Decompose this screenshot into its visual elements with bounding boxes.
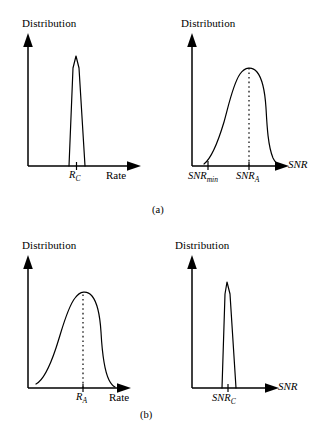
distribution-curve	[69, 56, 85, 166]
distribution-curve	[36, 292, 115, 387]
distribution-curve	[204, 68, 279, 165]
x-tick-label-snra: SNRA	[236, 170, 259, 181]
y-axis	[187, 33, 197, 166]
y-axis-title: Distribution	[22, 17, 76, 29]
x-axis-title: SNR	[278, 380, 298, 392]
figure-distributions: Distribution Rate RC Distribution SNR SN…	[0, 0, 326, 441]
y-axis-title: Distribution	[181, 17, 235, 29]
distribution-curve	[222, 282, 236, 388]
x-tick-label-snrc: SNRC	[212, 392, 236, 403]
x-axis-title: Rate	[109, 391, 129, 403]
panel-rate-narrow: Distribution Rate RC	[14, 30, 154, 180]
plot-rate-broad	[14, 252, 154, 402]
x-tick-label-snrmin: SNRmin	[188, 170, 218, 181]
x-tick-label-ra: RA	[76, 391, 87, 402]
x-axis-title: Rate	[106, 169, 126, 181]
subfigure-caption-a: (a)	[152, 204, 164, 215]
x-axis-title: SNR	[288, 158, 308, 170]
panel-snr-narrow: Distribution SNR SNRC	[178, 252, 318, 402]
plot-rate-narrow	[14, 30, 154, 180]
x-tick-label-rc: RC	[69, 169, 80, 180]
panel-rate-broad: Distribution Rate RA	[14, 252, 154, 402]
y-axis-title: Distribution	[22, 239, 76, 251]
y-axis-title: Distribution	[175, 239, 229, 251]
y-axis	[23, 33, 33, 166]
subfigure-caption-b: (b)	[140, 409, 152, 420]
y-axis	[187, 255, 197, 388]
y-axis	[23, 255, 33, 388]
panel-snr-broad: Distribution SNR SNRmin SNRA	[178, 30, 318, 180]
